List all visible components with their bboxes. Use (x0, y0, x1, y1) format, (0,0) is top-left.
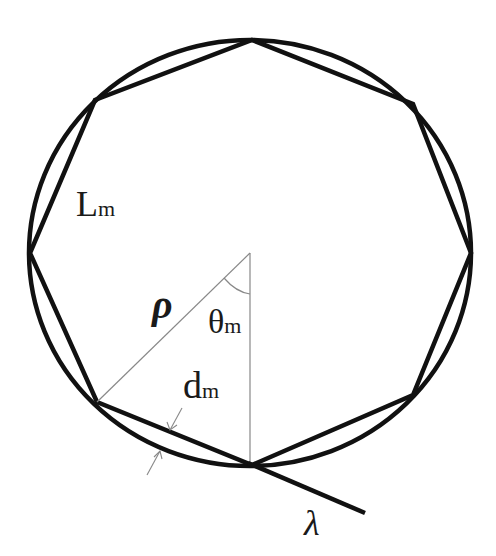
radius-label: ρ (151, 282, 173, 327)
angle-label: θm (208, 303, 241, 340)
line-lambda-label: λ (303, 503, 320, 543)
angle-arc (224, 278, 250, 294)
side-length-label: Lm (76, 184, 115, 224)
octagon-in-circle-diagram: Lm ρ θm dm λ (0, 0, 496, 556)
gap-label: dm (183, 364, 219, 406)
gap-arrows (147, 408, 182, 475)
